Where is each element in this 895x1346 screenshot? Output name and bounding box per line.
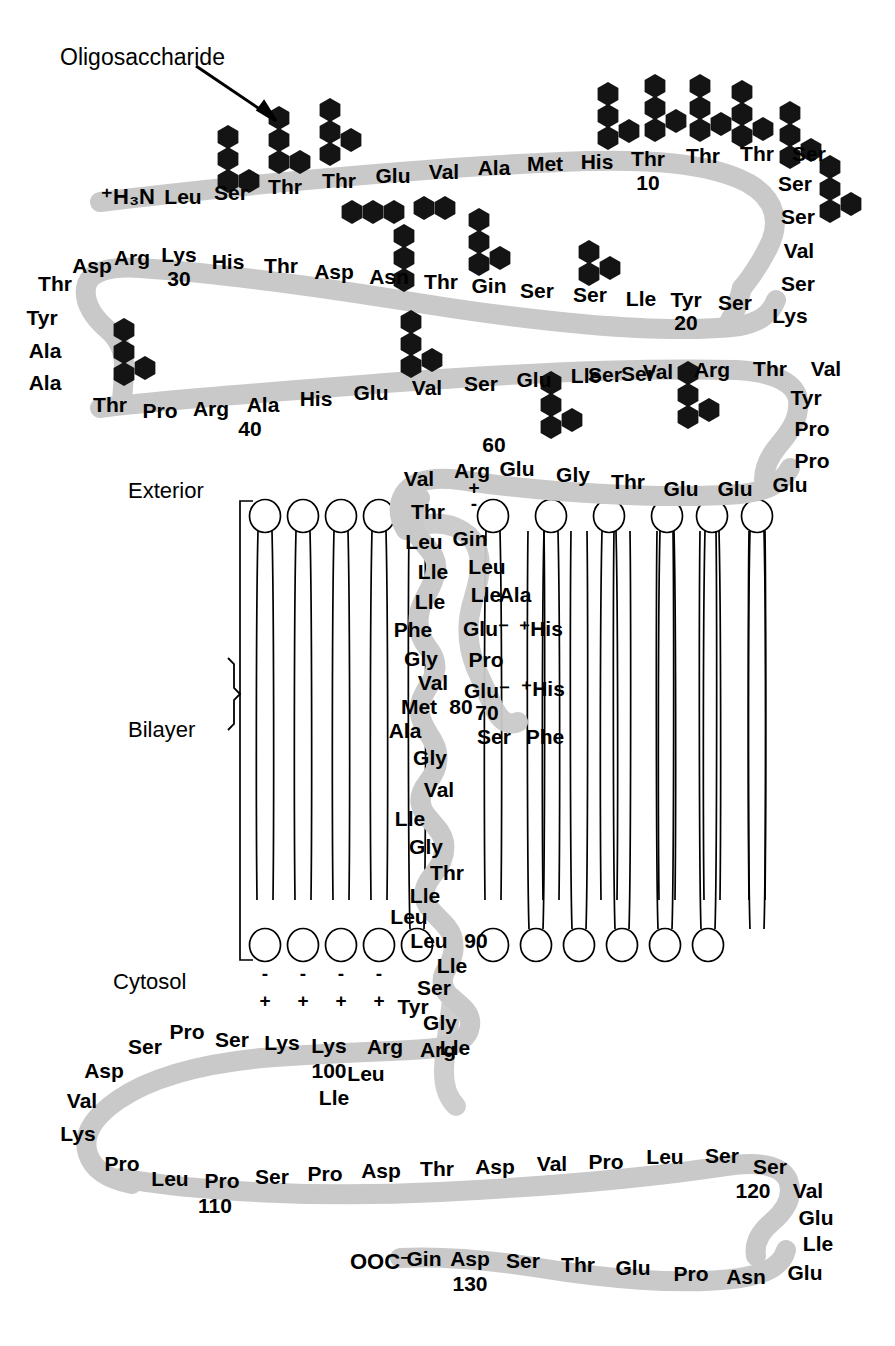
glycophorin-topology-figure: Oligosaccharide Exterior Bilayer Cytosol…	[0, 0, 895, 1346]
oligosaccharide-callout-arrow	[0, 0, 895, 1346]
callout-oligosaccharide: Oligosaccharide	[60, 46, 225, 69]
